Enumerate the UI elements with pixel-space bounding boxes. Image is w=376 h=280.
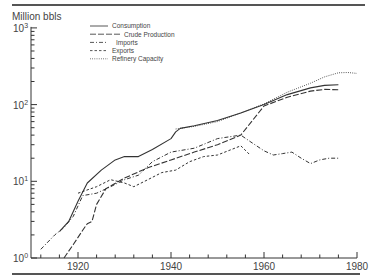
legend-label: Refinery Capacity bbox=[112, 55, 164, 63]
series-exports bbox=[78, 146, 250, 193]
y-tick-label: 101 bbox=[13, 175, 28, 187]
x-tick-label: 1920 bbox=[67, 261, 90, 272]
series-crude-production bbox=[64, 89, 338, 258]
y-tick-label: 103 bbox=[13, 22, 28, 34]
series-refinery-capacity bbox=[176, 73, 357, 130]
legend-label: Imports bbox=[116, 39, 138, 47]
x-tick-label: 1960 bbox=[253, 261, 276, 272]
legend-label: Consumption bbox=[112, 22, 151, 30]
series-imports bbox=[41, 135, 339, 249]
x-tick-label: 1940 bbox=[160, 261, 183, 272]
bottom-rule bbox=[12, 273, 360, 275]
y-tick-label: 102 bbox=[13, 99, 28, 111]
series-lines bbox=[41, 73, 357, 259]
axes bbox=[31, 27, 357, 258]
legend-label: Exports bbox=[112, 47, 135, 55]
y-tick-label: 100 bbox=[13, 252, 28, 264]
legend-label: Crude Production bbox=[124, 31, 175, 38]
legend: ConsumptionCrude ProductionImportsExport… bbox=[90, 22, 175, 63]
chart: 1031021011001920194019601980 Consumption… bbox=[0, 0, 376, 280]
tick-labels: 1031021011001920194019601980 bbox=[13, 22, 369, 272]
x-tick-label: 1980 bbox=[346, 261, 369, 272]
